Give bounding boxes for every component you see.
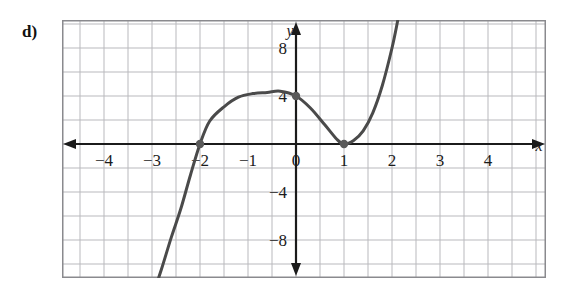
x-tick-3: 3 bbox=[436, 151, 445, 170]
x-tick--3: −3 bbox=[143, 151, 161, 170]
part-label: d) bbox=[22, 22, 37, 42]
y-tick--8: −8 bbox=[269, 231, 287, 250]
x-tick--1: −1 bbox=[239, 151, 257, 170]
figure-canvas: d) −4−3−2−101234 84−4−8 y x bbox=[0, 0, 572, 296]
axes bbox=[63, 22, 545, 276]
x-tick-4: 4 bbox=[484, 151, 493, 170]
x-axis-tick-labels: −4−3−2−101234 bbox=[95, 151, 493, 170]
coordinate-graph: −4−3−2−101234 84−4−8 y x bbox=[62, 20, 546, 278]
y-tick-8: 8 bbox=[279, 39, 288, 58]
y-axis-label: y bbox=[284, 22, 294, 40]
y-tick--4: −4 bbox=[269, 183, 288, 202]
grid-lines bbox=[63, 21, 545, 277]
plot-frame bbox=[63, 21, 546, 278]
x-tick--4: −4 bbox=[95, 151, 114, 170]
x-tick-1: 1 bbox=[340, 151, 349, 170]
x-tick-2: 2 bbox=[388, 151, 397, 170]
marked-point-x-intercept bbox=[196, 140, 204, 148]
graph-plot-area: −4−3−2−101234 84−4−8 y x bbox=[62, 20, 546, 278]
x-axis-label: x bbox=[534, 137, 542, 154]
marked-point-y-intercept bbox=[292, 92, 300, 100]
x-tick-0: 0 bbox=[292, 151, 301, 170]
marked-point-double-root bbox=[340, 140, 348, 148]
